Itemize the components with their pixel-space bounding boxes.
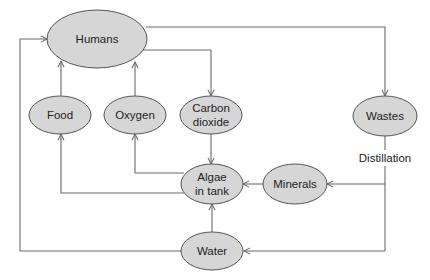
node-humans: Humans — [47, 10, 147, 68]
edge-algae-to-food — [61, 134, 184, 193]
node-label-algae-line2: in tank — [195, 185, 229, 197]
edge-label-distillation: Distillation — [359, 152, 411, 164]
node-minerals: Minerals — [263, 164, 327, 204]
edge-algae-to-oxygen — [135, 134, 184, 173]
node-label-carbon-dioxide-line1: Carbon — [192, 102, 230, 114]
node-label-minerals: Minerals — [273, 178, 317, 190]
node-label-oxygen: Oxygen — [115, 109, 155, 121]
node-label-carbon-dioxide-line2: dioxide — [193, 116, 229, 128]
node-wastes: Wastes — [353, 96, 417, 136]
node-algae-in-tank: Algae in tank — [181, 164, 243, 204]
node-label-humans: Humans — [76, 33, 119, 45]
node-label-water: Water — [197, 245, 227, 257]
life-support-cycle-diagram: Humans Food Oxygen Carbon dioxide Wastes… — [0, 0, 430, 280]
edge-water-to-humans — [20, 39, 181, 251]
edge-humans-to-wastes — [146, 27, 385, 96]
node-carbon-dioxide: Carbon dioxide — [180, 96, 242, 134]
node-food: Food — [29, 96, 91, 134]
node-label-algae-line1: Algae — [197, 171, 226, 183]
node-oxygen: Oxygen — [104, 96, 166, 134]
node-label-food: Food — [47, 109, 73, 121]
node-water: Water — [181, 232, 243, 270]
node-label-wastes: Wastes — [366, 110, 404, 122]
edge-humans-to-carbon-dioxide — [141, 50, 211, 96]
